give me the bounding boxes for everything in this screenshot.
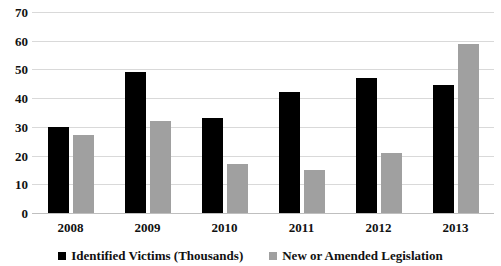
y-axis-tick-label: 50: [15, 63, 28, 76]
bar: [433, 85, 454, 213]
axis-baseline: [32, 213, 494, 214]
x-axis-tick-label: 2012: [340, 216, 417, 240]
x-axis-tick-label: 2011: [263, 216, 340, 240]
y-axis: 010203040506070: [0, 12, 28, 213]
x-axis: 200820092010201120122013: [32, 216, 494, 240]
legend-swatch-icon: [269, 252, 277, 260]
legend-item[interactable]: Identified Victims (Thousands): [58, 248, 243, 264]
x-axis-tick-label: 2008: [32, 216, 109, 240]
legend-item[interactable]: New or Amended Legislation: [269, 248, 442, 264]
bar-group: [186, 12, 263, 213]
legend-label: Identified Victims (Thousands): [71, 248, 243, 264]
y-axis-tick-label: 40: [15, 92, 28, 105]
bar: [458, 44, 479, 213]
y-axis-tick-label: 70: [15, 6, 28, 19]
bar: [150, 121, 171, 213]
y-axis-tick-label: 0: [22, 207, 29, 220]
x-axis-tick-label: 2010: [186, 216, 263, 240]
bar: [227, 164, 248, 213]
bar-group: [32, 12, 109, 213]
legend-label: New or Amended Legislation: [282, 248, 442, 264]
bar: [73, 135, 94, 213]
bar: [48, 127, 69, 213]
x-axis-tick-label: 2013: [417, 216, 494, 240]
bar-chart: 010203040506070 200820092010201120122013…: [0, 0, 501, 266]
y-axis-tick-label: 10: [15, 178, 28, 191]
y-axis-tick-label: 30: [15, 120, 28, 133]
bar: [202, 118, 223, 213]
bar: [279, 92, 300, 213]
bar: [356, 78, 377, 213]
bar-group: [340, 12, 417, 213]
legend-swatch-icon: [58, 252, 66, 260]
bar-group: [109, 12, 186, 213]
y-axis-tick-label: 20: [15, 149, 28, 162]
bar: [381, 153, 402, 213]
bar: [304, 170, 325, 213]
bar-groups: [32, 12, 494, 213]
bar-group: [417, 12, 494, 213]
bar: [125, 72, 146, 213]
chart-legend: Identified Victims (Thousands)New or Ame…: [0, 246, 501, 266]
plot-area: [32, 12, 494, 213]
bar-group: [263, 12, 340, 213]
x-axis-tick-label: 2009: [109, 216, 186, 240]
y-axis-tick-label: 60: [15, 34, 28, 47]
